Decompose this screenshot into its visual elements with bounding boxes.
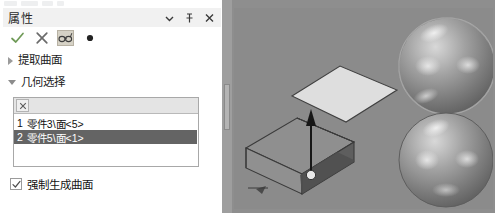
application-window: 属性	[0, 0, 495, 213]
ghost-block	[4, 1, 17, 6]
3d-scene	[234, 8, 493, 209]
selection-list-header	[14, 98, 198, 114]
clear-selection-button[interactable]	[16, 99, 29, 112]
property-manager-panel: 属性	[0, 0, 225, 213]
selection-list-box[interactable]: 1 零件3\面<5> 2 零件5\面<1>	[13, 97, 199, 167]
section-label: 几何选择	[21, 77, 65, 89]
3d-graphics-area[interactable]	[232, 0, 495, 213]
close-icon[interactable]	[204, 12, 215, 24]
check-icon[interactable]	[9, 30, 26, 46]
pin-icon[interactable]	[184, 12, 195, 24]
list-item-index: 1	[17, 117, 23, 129]
chevron-down-icon[interactable]	[164, 12, 175, 24]
page-title: 属性	[8, 9, 33, 26]
list-item[interactable]: 2 零件5\面<1>	[14, 130, 197, 144]
panel-title-buttons	[164, 12, 215, 24]
chevron-down-small-icon	[8, 80, 16, 85]
section-label: 提取曲面	[18, 55, 62, 67]
x-icon[interactable]	[33, 30, 50, 46]
list-item-index: 2	[17, 131, 23, 143]
dot-icon[interactable]	[81, 30, 98, 46]
section-header-extract-surface[interactable]: 提取曲面	[8, 55, 62, 67]
panel-title-bar: 属性	[3, 8, 221, 27]
clipped-toolbar-remnant	[4, 0, 104, 7]
property-manager-toolbar	[3, 28, 221, 48]
selection-list: 1 零件3\面<5> 2 零件5\面<1>	[14, 114, 198, 144]
glasses-icon[interactable]	[57, 30, 74, 46]
ghost-block	[57, 1, 64, 6]
list-item-label: 零件3\面<5>	[27, 116, 84, 131]
sphere-bottom	[399, 113, 493, 207]
chevron-right-icon	[8, 57, 13, 65]
ghost-block	[21, 1, 38, 6]
force-surface-checkbox-row[interactable]: 强制生成曲面	[10, 176, 93, 192]
sphere-top	[399, 18, 493, 114]
checkbox[interactable]	[10, 178, 22, 190]
list-item-label: 零件5\面<1>	[27, 130, 84, 145]
list-item[interactable]: 1 零件3\面<5>	[14, 116, 198, 130]
panel-splitter[interactable]	[222, 0, 232, 213]
ghost-block	[42, 1, 53, 6]
checkbox-label: 强制生成曲面	[27, 176, 93, 192]
section-header-geometry-selection[interactable]: 几何选择	[8, 77, 65, 89]
